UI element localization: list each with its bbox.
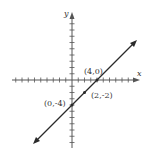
point-label-4-0: (4,0) <box>84 68 103 76</box>
point-2-neg2 <box>83 91 86 94</box>
coordinate-plane <box>0 0 155 150</box>
point-0-neg4 <box>71 104 74 107</box>
point-label-2-neg2: (2,-2) <box>91 92 113 100</box>
x-axis-arrow-icon <box>133 78 140 83</box>
y-axis-arrow-icon <box>70 12 75 19</box>
y-axis-label: y <box>64 10 69 18</box>
x-axis-label: x <box>137 70 142 78</box>
point-4-0 <box>96 79 99 82</box>
point-label-0-neg4: (0,-4) <box>44 100 66 108</box>
